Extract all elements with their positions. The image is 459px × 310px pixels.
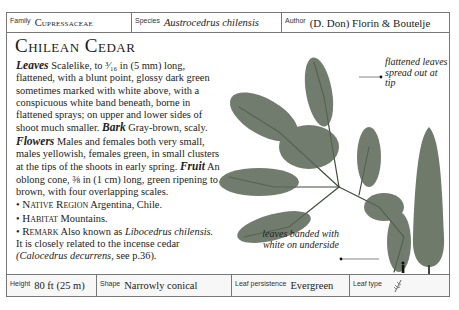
leaftype-cell: Leaf type (350, 275, 449, 296)
species-cell: Species Austrocedrus chilensis (132, 13, 282, 32)
footer-row: Height 80 ft (25 m) Shape Narrowly conic… (7, 274, 449, 296)
remark-bullet: • Remark Also known as Libocedrus chilen… (16, 225, 221, 263)
callout-flattened-leaves: flattened leaves spread out at tip (385, 57, 449, 89)
height-value: 80 ft (25 m) (34, 280, 84, 291)
shape-value: Narrowly conical (124, 280, 197, 291)
flowers-label: Flowers (16, 135, 54, 147)
native-region-bullet: • Native Region Argentina, Chile. (16, 198, 221, 211)
remark-text-1: Also known as (61, 226, 123, 237)
habitat-label: Habitat (22, 212, 58, 224)
author-value: (D. Don) Florin & Boutelje (310, 17, 431, 29)
leaves-label: Leaves (16, 59, 49, 71)
scale-leaf-icon (392, 279, 404, 293)
shape-label: Shape (100, 280, 120, 287)
shape-cell: Shape Narrowly conical (97, 275, 232, 296)
remark-text-2: It is closely related to the incense ced… (16, 238, 180, 249)
height-cell: Height 80 ft (25 m) (7, 275, 97, 296)
author-cell: Author (D. Don) Florin & Boutelje (282, 13, 449, 32)
remark-text-3: see p.36). (116, 250, 156, 261)
family-value: Cupressaceae (35, 17, 93, 28)
persistence-label: Leaf persistence (235, 280, 286, 287)
description: Leaves Scalelike, to ³⁄₁₆ in (5 mm) long… (16, 59, 221, 263)
person-scale-icon (401, 261, 404, 273)
species-card: Family Cupressaceae Species Austrocedrus… (6, 12, 450, 297)
remark-label: Remark (22, 225, 58, 237)
callout-banded-leaves: leaves banded with white on underside (239, 229, 339, 250)
bark-label: Bark (102, 121, 126, 133)
bark-text: Gray-brown, scaly. (128, 122, 207, 133)
tree-silhouette-icon (413, 127, 444, 275)
persistence-value: Evergreen (290, 280, 333, 291)
native-region-text: Argentina, Chile. (90, 199, 162, 210)
species-value: Austrocedrus chilensis (164, 17, 259, 28)
remark-italic-1: Libocedrus chilensis. (125, 226, 213, 237)
header-row: Family Cupressaceae Species Austrocedrus… (7, 13, 449, 33)
fruit-label: Fruit (180, 160, 205, 172)
author-label: Author (285, 17, 306, 24)
family-label: Family (10, 17, 31, 24)
remark-italic-2: (Calocedrus decurrens, (16, 250, 114, 261)
page-title: Chilean Cedar (15, 35, 135, 57)
habitat-text: Mountains. (61, 213, 108, 224)
family-cell: Family Cupressaceae (7, 13, 132, 32)
habitat-bullet: • Habitat Mountains. (16, 212, 221, 225)
native-region-label: Native Region (22, 198, 88, 210)
persistence-cell: Leaf persistence Evergreen (232, 275, 350, 296)
height-label: Height (10, 280, 30, 287)
species-label: Species (135, 17, 160, 24)
leaftype-label: Leaf type (353, 280, 382, 287)
